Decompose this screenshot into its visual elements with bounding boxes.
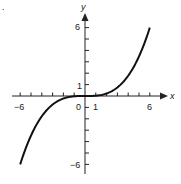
x-tick-label-0: 0 [76,102,81,112]
y-axis-label: y [80,2,86,12]
x-tick-label-1: 1 [93,102,98,112]
cubic-function-graph: . x y −6 0 1 6 6 1 −6 [0,0,181,184]
x-axis-arrow-icon [160,93,168,100]
y-tick-label-6: 6 [75,22,80,32]
figure-marker: . [2,2,5,12]
x-axis-label: x [169,91,175,101]
y-axis-arrow-icon [82,13,89,21]
y-tick-label-neg6: −6 [70,160,80,170]
x-tick-label-6: 6 [147,102,152,112]
y-tick-label-1: 1 [77,81,82,91]
x-tick-label-neg6: −6 [14,102,24,112]
